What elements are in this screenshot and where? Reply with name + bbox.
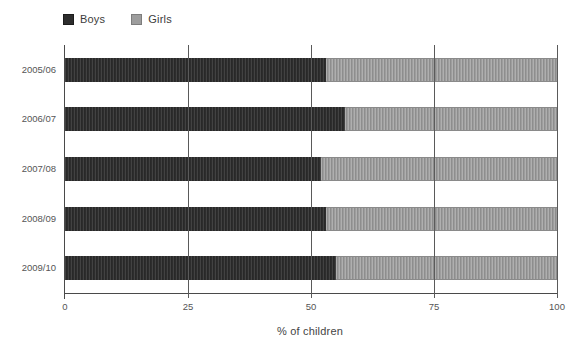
boys-swatch-icon xyxy=(63,14,74,25)
gridline-75 xyxy=(434,45,435,298)
girls-bar-segment xyxy=(321,157,557,181)
x-tick-label: 50 xyxy=(306,301,317,312)
gridline-50 xyxy=(311,45,312,298)
boys-bar-segment xyxy=(65,107,345,131)
x-tick-label: 100 xyxy=(549,301,565,312)
boys-bar-segment xyxy=(65,207,326,231)
girls-bar-segment xyxy=(345,107,557,131)
girls-bar-segment xyxy=(326,58,557,82)
boys-bar-segment xyxy=(65,157,321,181)
legend-label-boys: Boys xyxy=(80,13,105,25)
plot-area: 02550751002005/062006/072007/082008/0920… xyxy=(64,45,557,294)
gridline-100 xyxy=(557,45,558,298)
girls-swatch-icon xyxy=(131,14,142,25)
stacked-bar-chart: Boys Girls 02550751002005/062006/072007/… xyxy=(0,0,585,358)
x-tick-label: 75 xyxy=(429,301,440,312)
girls-bar-segment xyxy=(326,207,557,231)
y-axis-label: 2008/09 xyxy=(0,207,56,231)
y-axis-label: 2005/06 xyxy=(0,58,56,82)
x-axis-title: % of children xyxy=(64,325,556,337)
x-tick-label: 0 xyxy=(62,301,67,312)
legend-item-boys: Boys xyxy=(63,13,105,25)
y-axis-label: 2006/07 xyxy=(0,107,56,131)
legend-item-girls: Girls xyxy=(131,13,172,25)
gridline-25 xyxy=(188,45,189,298)
boys-bar-segment xyxy=(65,58,326,82)
y-axis-label: 2007/08 xyxy=(0,157,56,181)
legend: Boys Girls xyxy=(63,13,172,25)
x-tick-label: 25 xyxy=(183,301,194,312)
boys-bar-segment xyxy=(65,256,336,280)
y-axis-label: 2009/10 xyxy=(0,256,56,280)
legend-label-girls: Girls xyxy=(148,13,172,25)
girls-bar-segment xyxy=(336,256,557,280)
x-tick-mark xyxy=(64,293,65,299)
